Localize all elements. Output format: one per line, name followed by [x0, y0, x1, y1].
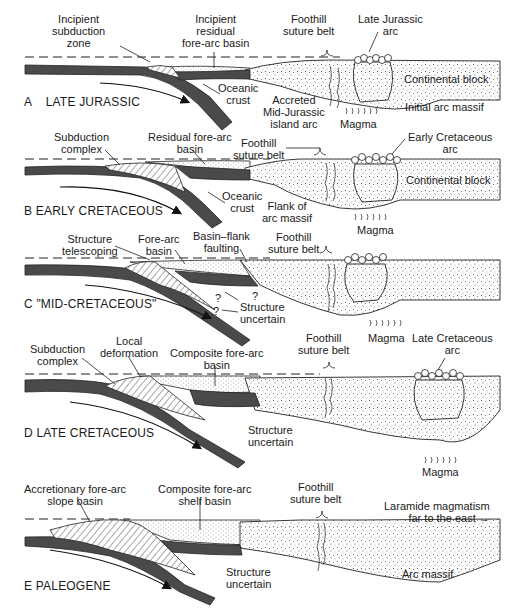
suture-bracket [286, 148, 326, 155]
label-foothill-suture-belt: Foothill suture belt [268, 231, 319, 255]
label-magma: Magma [357, 224, 394, 236]
label-foothill-suture-belt: Foothill suture belt [290, 481, 341, 505]
label-composite-shelf-basin: Composite fore-arc shelf basin [158, 483, 252, 507]
label-laramide-magmatism: Laramide magmatism far to the east → [384, 500, 490, 524]
leader-line [128, 356, 140, 376]
panel-title-d: D LATE CRETACEOUS [24, 427, 154, 440]
label-incipient-residual-forearc-basin: Incipient residual fore-arc basin [182, 13, 249, 49]
label-subduction-complex: Subduction complex [54, 131, 109, 155]
leader-line [392, 139, 405, 154]
label-composite-forearc-basin: Composite fore-arc basin [170, 347, 264, 371]
label-structure-telescoping: Structure telescoping [62, 233, 118, 257]
panel-title-e: E PALEOGENE [24, 580, 111, 593]
suture-bracket [323, 362, 335, 368]
label-continental-block: Continental block [406, 174, 490, 186]
panel-title-a: A LATE JURASSIC [24, 96, 140, 109]
label-structure-uncertain: Structure uncertain [248, 424, 293, 448]
arc-pluton [353, 62, 392, 102]
label-structure-uncertain: Structure uncertain [226, 566, 271, 590]
panel-d [25, 356, 500, 468]
label-subduction-complex: Subduction complex [30, 343, 85, 367]
label-accretionary-slope-basin: Accretionary fore-arc slope basin [24, 483, 126, 507]
arc-pluton [345, 264, 388, 302]
label-accreted-island-arc: Accreted Mid-Jurassic island arc [263, 94, 325, 130]
leader-line [120, 46, 150, 62]
label-basin-flank-faulting: Basin–flank faulting [193, 230, 250, 254]
label-residual-forearc-basin: Residual fore-arc basin [148, 131, 232, 155]
magma-squiggles [355, 214, 386, 220]
label-magma: Magma [340, 118, 377, 130]
suture-bracket [320, 246, 332, 253]
arc-pluton [354, 164, 398, 202]
question-mark: ? [215, 292, 221, 304]
label-oceanic-crust: Oceanic crust [218, 82, 258, 106]
label-structure-uncertain: Structure uncertain [240, 301, 285, 325]
label-arc: Early Cretaceous arc [408, 131, 492, 155]
leader-line [438, 358, 445, 370]
label-arc: Late Jurassic arc [358, 13, 423, 37]
label-arc: Late Cretaceous arc [412, 332, 493, 356]
panel-title-c: C "MID-CRETACEOUS" [24, 298, 157, 311]
leader-line [82, 358, 115, 384]
magma-squiggles [370, 320, 401, 326]
leader-line [222, 310, 238, 312]
label-incipient-subduction-zone: Incipient subduction zone [52, 13, 105, 49]
label-magma: Magma [368, 332, 405, 344]
arc-massif [240, 519, 500, 582]
panel-c [25, 246, 500, 346]
label-local-deformation: Local deformation [100, 335, 158, 359]
magma-squiggles [425, 457, 456, 463]
magma-squiggles [346, 108, 377, 114]
label-foothill-suture-belt: Foothill suture belt [283, 13, 334, 37]
label-forearc-basin: Fore-arc basin [138, 233, 180, 257]
label-initial-arc-massif: Initial arc massif [405, 101, 484, 113]
panel-title-b: B EARLY CRETACEOUS [24, 205, 163, 218]
label-oceanic-crust: Oceanic crust [222, 190, 262, 214]
leader-line [225, 292, 238, 300]
label-arc-massif: Arc massif [402, 568, 453, 580]
label-flank-of-arc-massif: Flank of arc massif [262, 200, 312, 224]
suture-bracket [321, 50, 333, 56]
label-foothill-suture-belt: Foothill suture belt [233, 137, 284, 161]
question-mark: ? [213, 305, 219, 317]
arc-pluton [414, 380, 464, 420]
label-continental-block: Continental block [404, 73, 488, 85]
label-magma: Magma [422, 466, 459, 478]
label-foothill-suture-belt: Foothill suture belt [298, 332, 349, 356]
suture-bracket [316, 511, 328, 518]
question-mark: ? [252, 290, 258, 302]
